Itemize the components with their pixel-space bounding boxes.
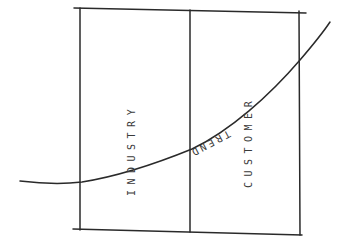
diagram-canvas: INDUSTRY CUSTOMER TREND [0, 0, 351, 249]
frame-bottom-line [73, 229, 302, 235]
frame-right-line [299, 11, 300, 235]
trend-label: TREND [187, 128, 232, 159]
matrix-frame [73, 8, 306, 235]
trend-curve [20, 22, 330, 183]
column-label-industry: INDUSTRY [126, 104, 137, 196]
column-label-customer: CUSTOMER [243, 96, 254, 188]
